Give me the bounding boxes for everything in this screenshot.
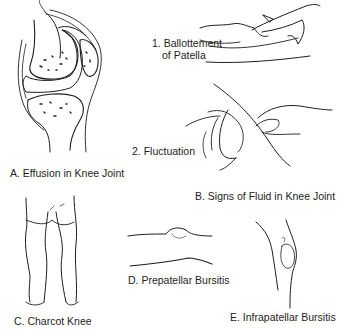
knee-joint-diagram xyxy=(18,0,101,152)
panel-e-caption: E. Infrapatellar Bursitis xyxy=(230,311,336,323)
ballottement-illustration xyxy=(200,5,320,63)
panel-b-caption: B. Signs of Fluid in Knee Joint xyxy=(195,190,335,202)
fluctuation-illustration xyxy=(186,84,332,170)
panel-a-caption: A. Effusion in Knee Joint xyxy=(10,167,124,179)
charcot-knee-illustration xyxy=(25,196,78,305)
infrapatellar-bursitis-illustration xyxy=(256,220,296,308)
ballottement-label-line1: 1. Ballottement xyxy=(152,37,222,49)
fluctuation-label: 2. Fluctuation xyxy=(132,145,195,157)
panel-d-caption: D. Prepatellar Bursitis xyxy=(128,274,230,286)
prepatellar-bursitis-illustration xyxy=(128,228,212,266)
panel-c-caption: C. Charcot Knee xyxy=(14,315,92,327)
ballottement-label-line2: of Patella xyxy=(162,49,206,61)
